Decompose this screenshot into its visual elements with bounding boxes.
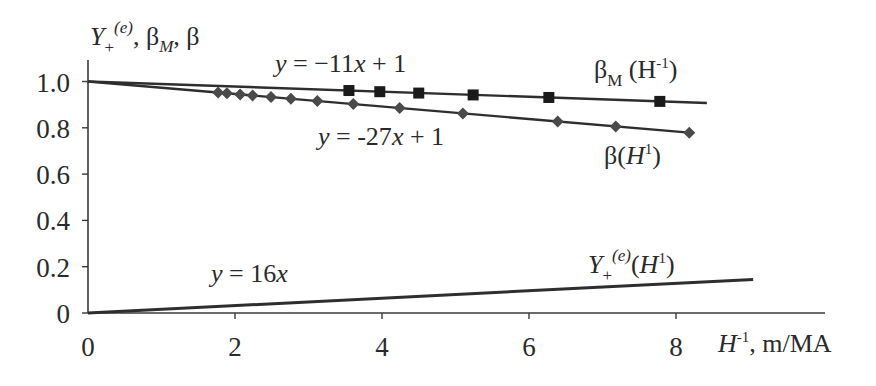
fit-line bbox=[88, 279, 753, 313]
square-marker bbox=[413, 88, 424, 99]
series-label-beta: β(H1) bbox=[604, 141, 661, 170]
diamond-marker bbox=[285, 93, 297, 105]
diamond-marker bbox=[311, 95, 323, 107]
equation-beta: y = -27x + 1 bbox=[315, 122, 444, 151]
y-tick-label: 0 bbox=[57, 299, 71, 329]
square-marker bbox=[654, 96, 665, 107]
square-marker bbox=[343, 85, 354, 96]
y-tick-label: 0.2 bbox=[36, 253, 70, 283]
y-tick-label: 0.4 bbox=[36, 206, 70, 236]
x-axis-label: H-1, m/MA bbox=[717, 329, 832, 358]
diamond-marker bbox=[683, 127, 695, 139]
diamond-marker bbox=[247, 89, 259, 101]
y-tick-label: 1.0 bbox=[36, 68, 70, 98]
x-tick-label: 8 bbox=[669, 332, 683, 362]
square-marker bbox=[374, 86, 385, 97]
diamond-marker bbox=[347, 98, 359, 110]
x-tick-label: 2 bbox=[228, 332, 242, 362]
x-ticks: 02468 bbox=[81, 313, 683, 362]
axes bbox=[88, 60, 825, 313]
x-tick-label: 0 bbox=[81, 332, 95, 362]
diamond-marker bbox=[221, 87, 233, 99]
x-tick-label: 6 bbox=[522, 332, 536, 362]
equation-betaM: y = −11x + 1 bbox=[272, 49, 406, 78]
y-tick-label: 0.8 bbox=[36, 114, 70, 144]
diamond-marker bbox=[552, 116, 564, 128]
diamond-marker bbox=[610, 120, 622, 132]
square-marker bbox=[468, 89, 479, 100]
y-tick-label: 0.6 bbox=[36, 160, 70, 190]
x-tick-label: 4 bbox=[375, 332, 389, 362]
square-marker bbox=[543, 92, 554, 103]
series-label-betaM: βM (H-1) bbox=[594, 55, 677, 90]
y-axis-label: Y+(e), βM, β bbox=[90, 18, 200, 57]
diamond-marker bbox=[265, 91, 277, 103]
y-ticks: 00.20.40.60.81.0 bbox=[36, 68, 88, 330]
series-label-Y: Y+(e)(H1) bbox=[588, 246, 675, 285]
diamond-marker bbox=[394, 102, 406, 114]
chart: 00.20.40.60.81.0 02468 Y+(e), βM, β H-1,… bbox=[0, 0, 876, 386]
series-2 bbox=[88, 279, 753, 313]
diamond-marker bbox=[457, 107, 469, 119]
equation-Y: y = 16x bbox=[208, 259, 288, 288]
diamond-marker bbox=[234, 88, 246, 100]
